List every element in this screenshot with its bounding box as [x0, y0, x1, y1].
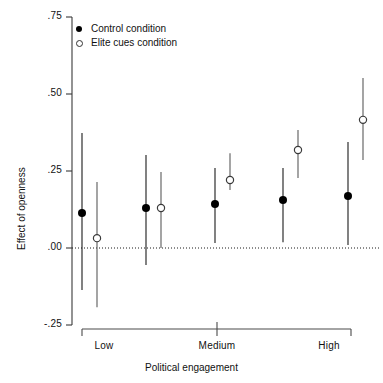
y-axis-title: Effect of openness	[16, 167, 27, 250]
y-tick-label: .25	[22, 164, 62, 175]
x-tick-label: High	[299, 340, 359, 351]
open-circle-icon	[72, 40, 86, 47]
legend-label-elite-cues: Elite cues condition	[91, 36, 177, 50]
legend-item-control: Control condition	[72, 22, 177, 36]
data-series-layer	[78, 78, 367, 307]
x-axis-bracket	[82, 322, 351, 336]
y-tick-label: .00	[22, 241, 62, 252]
legend-label-control: Control condition	[91, 22, 166, 36]
chart-container: Control condition Elite cues condition E…	[0, 0, 383, 383]
x-tick-label: Medium	[187, 340, 247, 351]
y-tick-label: .50	[22, 87, 62, 98]
y-tick-label: .75	[22, 10, 62, 21]
legend-item-elite-cues: Elite cues condition	[72, 36, 177, 50]
x-tick-label: Low	[74, 340, 134, 351]
y-tick-label: -.25	[22, 318, 62, 329]
filled-circle-icon	[72, 26, 86, 32]
legend: Control condition Elite cues condition	[72, 22, 177, 50]
x-axis-title: Political engagement	[0, 362, 383, 373]
axis-layer	[66, 17, 72, 325]
